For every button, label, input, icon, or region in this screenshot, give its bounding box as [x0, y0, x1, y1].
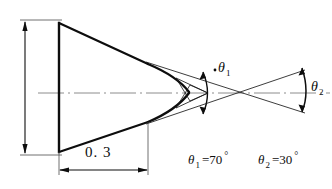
theta1-eq-subscript: 1	[194, 160, 202, 170]
theta2-eq-unit: °	[292, 150, 298, 161]
vdim-arrow-top	[22, 21, 27, 31]
theta1-subscript: 1	[225, 68, 231, 78]
vdim-arrow-bottom	[22, 144, 27, 154]
theta2-equation: θ2=30°	[258, 150, 298, 170]
theta1-leader-dot	[214, 69, 217, 72]
theta2-eq-value: =30	[272, 152, 292, 167]
theta2-label: θ2	[311, 79, 323, 97]
theta1-eq-value: =70	[202, 152, 222, 167]
theta2-symbol: θ	[311, 79, 318, 94]
dimension-value-length: 0. 3	[85, 144, 112, 161]
theta2-angle-arc	[302, 68, 306, 112]
upper-taper-line	[59, 23, 148, 64]
body-outline-group	[59, 23, 189, 152]
technical-drawing-canvas: θ1 θ2 0. 3 θ1=70° θ2=30°	[0, 0, 332, 189]
hdim-arrow-right	[138, 167, 148, 172]
upper-nose-curve	[148, 64, 189, 92]
theta2-lower-ray	[146, 70, 305, 124]
theta2-eq-subscript: 2	[264, 160, 272, 170]
theta1-symbol: θ	[218, 60, 225, 75]
hdim-arrow-left	[59, 167, 69, 172]
theta1-lower-backline	[190, 93, 208, 101]
theta1-eq-unit: °	[222, 150, 228, 161]
theta1-upper-backline	[190, 85, 208, 93]
theta1-label: θ1	[218, 60, 230, 78]
theta1-equation: θ1=70°	[188, 150, 228, 170]
vertical-dimension-group	[20, 20, 62, 155]
theta2-subscript: 2	[318, 87, 324, 97]
